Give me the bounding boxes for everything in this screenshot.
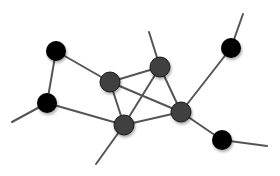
node-n7 [221, 38, 241, 58]
edge-n3-n6 [110, 82, 181, 112]
node-n3 [100, 72, 120, 92]
node-n2 [37, 93, 57, 113]
node-n5 [114, 115, 134, 135]
edge-n2-n5 [47, 103, 124, 125]
node-n6 [171, 102, 191, 122]
node-n1 [46, 41, 66, 61]
node-n8 [212, 130, 232, 150]
node-n4 [150, 57, 170, 77]
network-diagram [0, 0, 280, 176]
edge-n6-n7 [181, 48, 231, 112]
